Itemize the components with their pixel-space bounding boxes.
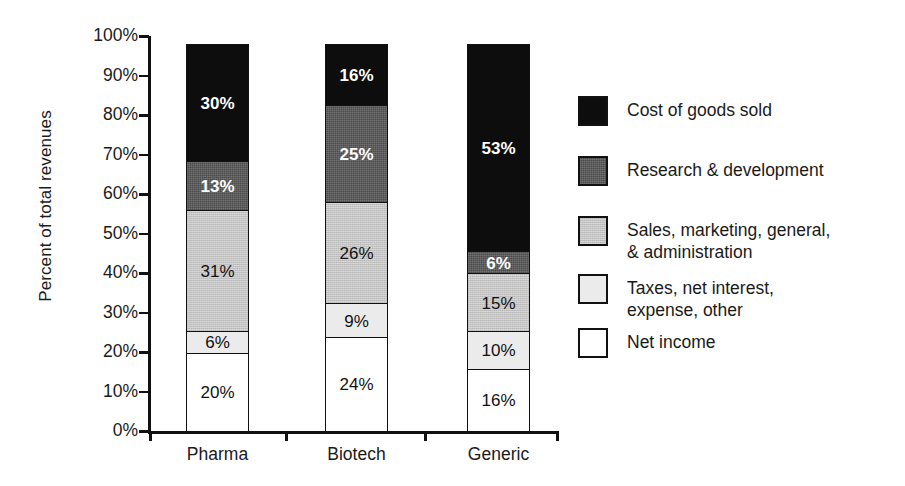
y-axis-tick-mark (139, 391, 149, 394)
legend-item-2[interactable]: Sales, marketing, general, & administrat… (578, 216, 830, 263)
bar-segment-value-label: 30% (200, 95, 234, 112)
bar-segment-value-label: 31% (200, 263, 234, 280)
x-axis-label-generic: Generic (429, 444, 569, 465)
bar-segment-taxes[interactable]: 6% (186, 331, 249, 355)
y-axis-tick-mark (139, 430, 149, 433)
y-axis-tick-label: 90% (66, 67, 138, 85)
bar-segment-net[interactable]: 24% (325, 337, 388, 432)
swatch-taxes-net-interest-expense-other (578, 274, 608, 304)
bar-generic[interactable]: 53%6%15%10%16% (467, 44, 530, 432)
y-axis-tick-label: 50% (66, 225, 138, 243)
bar-segment-smga[interactable]: 26% (325, 202, 388, 305)
bar-segment-value-label: 6% (486, 255, 511, 272)
bar-segment-taxes[interactable]: 9% (325, 303, 388, 339)
y-axis-tick-mark (139, 35, 149, 38)
x-axis-tick-mark (149, 431, 152, 441)
y-axis-tick-mark (139, 75, 149, 78)
x-axis-tick-mark (285, 431, 288, 441)
y-axis-tick-mark (139, 272, 149, 275)
bar-segment-cogs[interactable]: 53% (467, 44, 530, 253)
bar-segment-value-label: 15% (481, 295, 515, 312)
bar-segment-value-label: 13% (200, 178, 234, 195)
legend-item-label: Sales, marketing, general, & administrat… (627, 216, 830, 263)
bar-segment-value-label: 26% (339, 245, 373, 262)
x-axis-tick-mark (556, 431, 559, 441)
bar-segment-value-label: 9% (344, 313, 369, 330)
bar-segment-net[interactable]: 16% (467, 369, 530, 432)
bar-biotech[interactable]: 16%25%26%9%24% (325, 44, 388, 432)
stacked-bar-chart: Percent of total revenues 100%90%80%70%6… (0, 0, 905, 486)
y-axis-tick-labels: 100%90%80%70%60%50%40%30%20%10%0% (60, 0, 138, 486)
bar-segment-taxes[interactable]: 10% (467, 331, 530, 371)
bar-segment-value-label: 20% (200, 384, 234, 401)
x-axis-label-pharma: Pharma (148, 444, 288, 465)
legend-item-label: Net income (627, 328, 716, 353)
bar-segment-smga[interactable]: 31% (186, 210, 249, 332)
bar-segment-rnd[interactable]: 13% (186, 161, 249, 212)
legend-item-3[interactable]: Taxes, net interest, expense, other (578, 274, 774, 321)
y-axis-tick-mark (139, 114, 149, 117)
swatch-sales-marketing-general-administration (578, 216, 608, 246)
bar-segment-cogs[interactable]: 16% (325, 44, 388, 107)
bar-segment-net[interactable]: 20% (186, 353, 249, 432)
bar-segment-value-label: 6% (205, 334, 230, 351)
y-axis-tick-label: 30% (66, 304, 138, 322)
y-axis-tick-label: 10% (66, 383, 138, 401)
y-axis-tick-label: 20% (66, 343, 138, 361)
x-axis-tick-mark (424, 431, 427, 441)
y-axis-tick-mark (139, 154, 149, 157)
y-axis-tick-mark (139, 351, 149, 354)
y-axis-tick-label: 70% (66, 146, 138, 164)
legend-item-label: Cost of goods sold (627, 96, 772, 121)
swatch-cost-of-goods-sold (578, 96, 608, 126)
bar-segment-value-label: 16% (481, 392, 515, 409)
legend-item-label: Research & development (627, 156, 824, 181)
y-axis-tick-label: 60% (66, 185, 138, 203)
bar-segment-value-label: 24% (339, 376, 373, 393)
x-axis-label-biotech: Biotech (287, 444, 427, 465)
legend-item-1[interactable]: Research & development (578, 156, 824, 186)
y-axis-tick-label: 0% (66, 422, 138, 440)
bar-segment-smga[interactable]: 15% (467, 273, 530, 332)
y-axis-tick-mark (139, 233, 149, 236)
y-axis-tick-label: 40% (66, 264, 138, 282)
y-axis-tick-mark (139, 193, 149, 196)
bar-segment-value-label: 16% (339, 67, 373, 84)
legend-item-label: Taxes, net interest, expense, other (627, 274, 774, 321)
bar-segment-cogs[interactable]: 30% (186, 44, 249, 163)
y-axis-tick-mark (139, 312, 149, 315)
y-axis-tick-label: 80% (66, 106, 138, 124)
swatch-net-income (578, 328, 608, 358)
bar-segment-value-label: 25% (339, 146, 373, 163)
plot-area: 30%13%31%6%20%16%25%26%9%24%53%6%15%10%1… (148, 36, 560, 432)
bar-segment-rnd[interactable]: 6% (467, 251, 530, 275)
swatch-research-and-development (578, 156, 608, 186)
bar-segment-value-label: 53% (481, 140, 515, 157)
legend-item-4[interactable]: Net income (578, 328, 716, 358)
bar-segment-rnd[interactable]: 25% (325, 105, 388, 204)
bar-pharma[interactable]: 30%13%31%6%20% (186, 44, 249, 432)
y-axis-tick-label: 100% (66, 27, 138, 45)
y-axis-title: Percent of total revenues (36, 56, 56, 356)
legend-item-0[interactable]: Cost of goods sold (578, 96, 772, 126)
bar-segment-value-label: 10% (481, 342, 515, 359)
